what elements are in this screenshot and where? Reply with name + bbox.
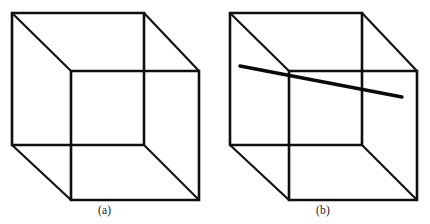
panel-b-caption: (b)	[316, 204, 330, 216]
necker-cube-figure	[0, 0, 430, 224]
figure-background	[0, 0, 430, 224]
figure-container: (a) (b)	[0, 0, 430, 224]
panel-a-caption: (a)	[98, 204, 111, 216]
